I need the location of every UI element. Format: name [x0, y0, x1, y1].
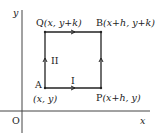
point-B-name: B	[96, 17, 103, 28]
point-Q	[44, 31, 46, 33]
y-axis-label: y	[13, 8, 18, 18]
point-P	[100, 87, 102, 89]
path-II-label: II	[51, 56, 59, 66]
point-A	[44, 87, 46, 89]
point-Q-name: Q	[36, 17, 44, 28]
point-P-label: P(x+h, y)	[96, 93, 141, 103]
point-P-coords: (x+h, y)	[102, 92, 140, 103]
point-B-label: B(x+h, y+k)	[96, 18, 155, 28]
point-A-name: A	[35, 80, 42, 90]
point-B-coords: (x+h, y+k)	[103, 17, 155, 28]
point-Q-label: Q(x, y+k)	[36, 18, 82, 28]
point-Q-coords: (x, y+k)	[44, 17, 82, 28]
point-B	[100, 31, 102, 33]
point-A-coords: (x, y)	[33, 94, 57, 104]
x-axis-label: x	[140, 116, 145, 126]
origin-label: O	[12, 116, 20, 126]
path-I-label: I	[71, 76, 75, 86]
